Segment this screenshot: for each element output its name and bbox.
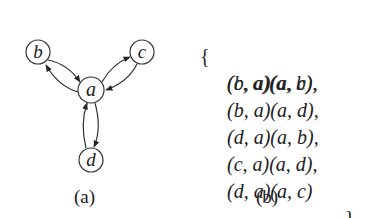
caption-b: (b) — [256, 186, 278, 208]
edge-c-to-a — [106, 64, 137, 90]
svg-text:b: b — [33, 41, 43, 62]
node-c: c — [130, 40, 154, 64]
pair-line-3: (b, a)(a, d), — [227, 97, 319, 124]
edge-a-to-d — [94, 103, 98, 147]
caption-a: (a) — [74, 186, 95, 208]
svg-text:a: a — [86, 78, 96, 100]
pair-line-2: (c, a)(a, b), — [227, 70, 318, 97]
edge-pair-list: { (b, a)(a, c), (c, a)(a, b), (b, a)(a, … — [200, 16, 220, 178]
pair-line-5: (c, a)(a, d), — [227, 151, 318, 178]
svg-text:d: d — [86, 149, 96, 170]
svg-text:c: c — [138, 41, 147, 62]
edge-b-to-a — [48, 60, 80, 82]
edge-d-to-a — [83, 103, 87, 148]
node-a: a — [78, 77, 104, 103]
edge-a-to-b — [46, 65, 78, 92]
close-brace: } — [345, 205, 355, 218]
node-d: d — [79, 148, 103, 172]
node-b: b — [26, 40, 50, 64]
pair-line-4: (d, a)(a, b), — [227, 124, 319, 151]
